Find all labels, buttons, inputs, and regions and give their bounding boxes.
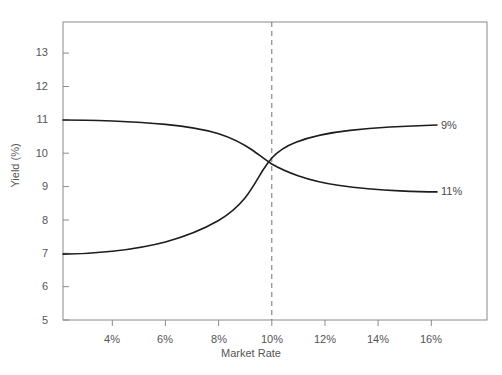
y-tick-label-13: 13 xyxy=(26,47,48,58)
y-axis-title: Yield (%) xyxy=(10,131,21,201)
x-tick-label-12-percent: 12% xyxy=(303,334,347,345)
plot-frame xyxy=(63,22,487,320)
y-tick-label-10: 10 xyxy=(26,148,48,159)
y-tick-label-8: 8 xyxy=(26,215,48,226)
y-tick-label-9: 9 xyxy=(26,181,48,192)
chart-plot-area xyxy=(0,0,502,375)
series-end-label-11-percent: 9% xyxy=(441,120,457,131)
x-axis-title: Market Rate xyxy=(0,348,502,359)
x-tick-label-16-percent: 16% xyxy=(409,334,453,345)
x-axis-ticks xyxy=(112,320,431,326)
x-tick-label-10-percent: 10% xyxy=(250,334,294,345)
series-line-descending xyxy=(63,120,437,192)
y-tick-label-6: 6 xyxy=(26,281,48,292)
x-tick-label-14-percent: 14% xyxy=(356,334,400,345)
y-tick-label-5: 5 xyxy=(26,315,48,326)
y-axis-ticks xyxy=(63,53,69,320)
y-tick-label-11: 11 xyxy=(26,114,48,125)
series-end-label-9-percent: 11% xyxy=(441,186,462,197)
x-tick-label-8-percent: 8% xyxy=(199,334,239,345)
y-tick-label-7: 7 xyxy=(26,248,48,259)
x-tick-label-6-percent: 6% xyxy=(145,334,185,345)
x-tick-label-4-percent: 4% xyxy=(92,334,132,345)
chart-container: 13 12 11 10 9 8 7 6 5 4% 6% 8% 10% 12% 1… xyxy=(0,0,502,375)
y-tick-label-12: 12 xyxy=(26,81,48,92)
